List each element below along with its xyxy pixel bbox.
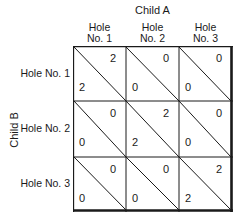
column-header-hole-1: Hole No. 1 [73,22,126,44]
child-a-payoff: 0 [163,163,169,175]
child-a-payoff: 2 [163,107,169,119]
child-b-payoff: 0 [132,81,138,93]
column-header-hole-3: Hole No. 3 [179,22,232,44]
cell-r1-c3: 0 0 [179,46,232,101]
column-header-hole-2: Hole No. 2 [126,22,179,44]
child-b-payoff: 2 [132,136,138,148]
row-header-hole-2: Hole No. 2 [0,122,70,134]
cell-r1-c1: 2 2 [73,46,126,101]
child-b-payoff: 0 [185,136,191,148]
payoff-grid: 2 2 0 0 0 0 0 0 2 2 0 0 0 0 0 [73,46,233,212]
child-a-payoff: 0 [110,163,116,175]
column-header-line2: No. 3 [179,33,232,44]
column-header-line2: No. 1 [73,33,126,44]
child-a-payoff: 2 [110,52,116,64]
column-title-child-a: Child A [126,4,179,16]
row-header-hole-3: Hole No. 3 [0,177,70,189]
cell-r3-c1: 0 0 [73,157,126,212]
cell-r2-c3: 0 0 [179,101,232,156]
child-b-payoff: 0 [79,192,85,204]
child-a-payoff: 0 [216,107,222,119]
child-b-payoff: 2 [79,81,85,93]
child-a-payoff: 0 [110,107,116,119]
cell-r3-c3: 2 2 [179,157,232,212]
child-a-payoff: 0 [216,52,222,64]
child-b-payoff: 0 [79,136,85,148]
row-header-hole-1: Hole No. 1 [0,67,70,79]
child-a-payoff: 0 [163,52,169,64]
child-b-payoff: 2 [185,192,191,204]
cell-r2-c2: 2 2 [126,101,179,156]
child-b-payoff: 0 [132,192,138,204]
child-a-payoff: 2 [216,163,222,175]
cell-r2-c1: 0 0 [73,101,126,156]
cell-r3-c2: 0 0 [126,157,179,212]
column-header-line2: No. 2 [126,33,179,44]
child-b-payoff: 0 [185,81,191,93]
cell-r1-c2: 0 0 [126,46,179,101]
